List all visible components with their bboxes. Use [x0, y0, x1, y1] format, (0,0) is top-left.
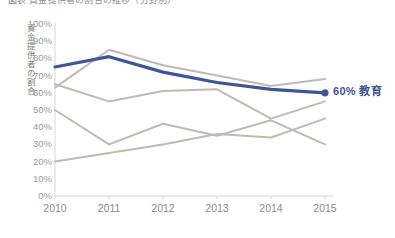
x-axis-tick: 2012 [151, 203, 174, 214]
chart-container: 図表 資金提供者の割合の推移（分野別） 資金提供者の割合 100%90%80%7… [0, 0, 395, 238]
x-axis-tick: 2014 [259, 203, 282, 214]
x-axis-tick: 2011 [98, 203, 121, 214]
series-line-教育 [55, 57, 325, 93]
series-line-series-5 [55, 119, 325, 162]
series-end-label: 60% 教育 [333, 82, 382, 98]
series-end-marker [321, 89, 328, 96]
x-axis-tick: 2015 [313, 203, 336, 214]
x-axis-tick: 2013 [205, 203, 228, 214]
series-line-series-2 [55, 50, 325, 88]
x-axis-tick: 2010 [43, 203, 66, 214]
